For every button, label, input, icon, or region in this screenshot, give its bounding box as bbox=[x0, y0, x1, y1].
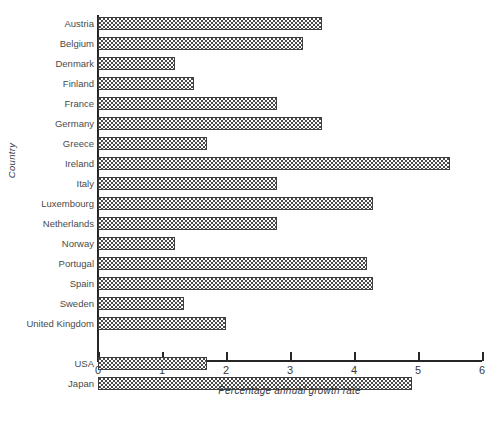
bar bbox=[98, 137, 207, 150]
x-tick-label: 4 bbox=[339, 364, 369, 376]
bar bbox=[98, 117, 322, 130]
bar bbox=[98, 217, 277, 230]
x-tick-mark bbox=[418, 352, 420, 361]
category-label: Ireland bbox=[0, 159, 94, 169]
category-label: France bbox=[0, 99, 94, 109]
category-label: Denmark bbox=[0, 59, 94, 69]
category-label: Netherlands bbox=[0, 219, 94, 229]
x-tick-label: 6 bbox=[467, 364, 497, 376]
x-tick-label: 3 bbox=[275, 364, 305, 376]
plot-area: 0123456 AustriaBelgiumDenmarkFinlandFran… bbox=[0, 0, 498, 423]
bar bbox=[98, 317, 226, 330]
x-tick-label: 2 bbox=[211, 364, 241, 376]
x-tick-mark bbox=[226, 352, 228, 361]
category-label: United Kingdom bbox=[0, 319, 94, 329]
bar bbox=[98, 357, 207, 370]
bar bbox=[98, 237, 175, 250]
category-label: Greece bbox=[0, 139, 94, 149]
x-tick-mark bbox=[482, 352, 484, 361]
bar bbox=[98, 257, 367, 270]
bar bbox=[98, 37, 303, 50]
category-label: Norway bbox=[0, 239, 94, 249]
category-label: Belgium bbox=[0, 39, 94, 49]
x-tick-mark bbox=[354, 352, 356, 361]
bar bbox=[98, 157, 450, 170]
x-tick-mark bbox=[290, 352, 292, 361]
category-label: Germany bbox=[0, 119, 94, 129]
category-label: Sweden bbox=[0, 299, 94, 309]
bar bbox=[98, 97, 277, 110]
bar bbox=[98, 57, 175, 70]
bar bbox=[98, 277, 373, 290]
bar bbox=[98, 17, 322, 30]
category-label: Luxembourg bbox=[0, 199, 94, 209]
bar bbox=[98, 197, 373, 210]
category-label: Japan bbox=[0, 379, 94, 389]
category-label: Finland bbox=[0, 79, 94, 89]
category-label: Italy bbox=[0, 179, 94, 189]
category-label: Portugal bbox=[0, 259, 94, 269]
category-label: Austria bbox=[0, 19, 94, 29]
x-axis-title: Percentage annual growth rate bbox=[97, 385, 482, 396]
bar bbox=[98, 177, 277, 190]
category-label: Spain bbox=[0, 279, 94, 289]
category-label: USA bbox=[0, 359, 94, 369]
x-tick-label: 5 bbox=[403, 364, 433, 376]
bar bbox=[98, 297, 184, 310]
bar bbox=[98, 77, 194, 90]
bar-chart: Country 0123456 AustriaBelgiumDenmarkFin… bbox=[0, 0, 498, 423]
